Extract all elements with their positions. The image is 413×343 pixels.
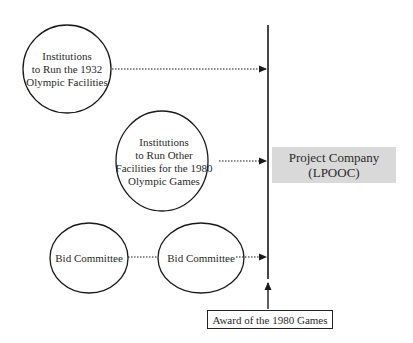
label-line: Institutions: [42, 50, 92, 63]
institutions-1932-label: Institutions to Run the 1932 Olympic Fac…: [23, 45, 111, 93]
label-text: Bid Committee: [167, 252, 235, 265]
bid-committee-1-label: Bid Committee: [50, 250, 128, 266]
project-company-acronym: (LPOOC): [308, 165, 359, 180]
label-line: Olympic Facilities: [26, 76, 108, 89]
award-box: Award of the 1980 Games: [207, 310, 333, 329]
label-text: Bid Committee: [55, 252, 123, 265]
label-line: to Run the 1932: [32, 63, 103, 76]
label-line: to Run Other: [135, 149, 192, 162]
institutions-1980-label: Institutions to Run Other Facilities for…: [112, 132, 216, 192]
project-company-box: Project Company (LPOOC): [272, 147, 396, 183]
award-label: Award of the 1980 Games: [212, 314, 327, 326]
label-line: Olympic Games: [128, 175, 200, 188]
bid-committee-2-label: Bid Committee: [158, 250, 244, 266]
label-line: Institutions: [139, 136, 189, 149]
project-company-name: Project Company: [289, 150, 380, 165]
label-line: Facilities for the 1980: [116, 162, 213, 175]
